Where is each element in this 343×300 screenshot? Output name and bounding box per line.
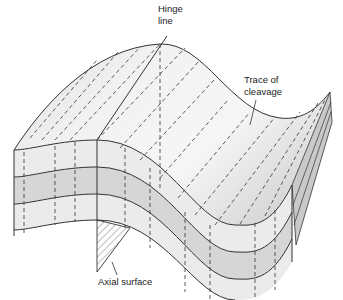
fold-diagram: Hinge line Trace of cleavage Axial surfa…: [0, 0, 343, 300]
label-trace-of-cleavage-2: cleavage: [244, 86, 282, 97]
label-axial-surface: Axial surface: [98, 276, 152, 287]
axial-surface: [97, 220, 130, 272]
leader-axial-surface: [112, 262, 117, 275]
label-hinge-line-1: Hinge: [158, 3, 183, 14]
label-trace-of-cleavage-1: Trace of: [244, 74, 279, 85]
label-hinge-line-2: line: [158, 15, 173, 26]
